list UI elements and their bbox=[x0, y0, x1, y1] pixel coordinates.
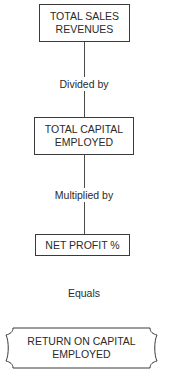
node-total-capital-employed: TOTAL CAPITAL EMPLOYED bbox=[34, 117, 134, 155]
node-label-line: REVENUES bbox=[50, 23, 119, 36]
edge-label-multiplied-by: Multiplied by bbox=[0, 189, 168, 201]
node-label-line: TOTAL SALES bbox=[50, 10, 119, 23]
edge-label-text: Multiplied by bbox=[53, 188, 115, 202]
node-label-line: EMPLOYED bbox=[45, 136, 123, 149]
node-label-line: NET PROFIT % bbox=[45, 239, 119, 252]
node-net-profit-percent: NET PROFIT % bbox=[35, 234, 130, 256]
edge-label-divided-by: Divided by bbox=[0, 78, 168, 90]
node-total-sales-revenues: TOTAL SALES REVENUES bbox=[39, 4, 130, 42]
node-label-line: TOTAL CAPITAL bbox=[45, 123, 123, 136]
edge-label-text: Divided by bbox=[57, 77, 110, 91]
node-label-line: RETURN ON CAPITAL bbox=[27, 335, 135, 348]
node-label-line: EMPLOYED bbox=[27, 348, 135, 361]
node-return-on-capital-employed: RETURN ON CAPITAL EMPLOYED bbox=[4, 327, 159, 369]
edge-label-text: Equals bbox=[66, 286, 102, 300]
edge-label-equals: Equals bbox=[0, 287, 168, 299]
